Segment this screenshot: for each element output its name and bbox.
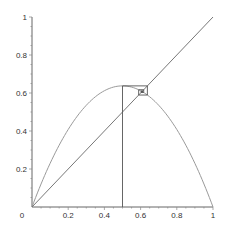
y-tick-label: 0.8	[16, 51, 28, 60]
y-tick-label: 1	[23, 13, 28, 22]
x-tick-label: 1	[211, 211, 216, 220]
x-tick-label: 0	[20, 211, 25, 220]
cobweb-path	[123, 86, 148, 207]
x-tick-label: 0.2	[63, 211, 75, 220]
y-tick-label: 0.4	[16, 127, 28, 136]
x-tick-label: 0.8	[171, 211, 183, 220]
y-tick-label: 0.6	[16, 89, 28, 98]
cobweb-plot: 00.20.40.60.810.20.40.60.81	[0, 0, 229, 230]
x-tick-label: 0.4	[99, 211, 111, 220]
x-tick-label: 0.6	[135, 211, 147, 220]
y-tick-label: 0.2	[16, 165, 28, 174]
